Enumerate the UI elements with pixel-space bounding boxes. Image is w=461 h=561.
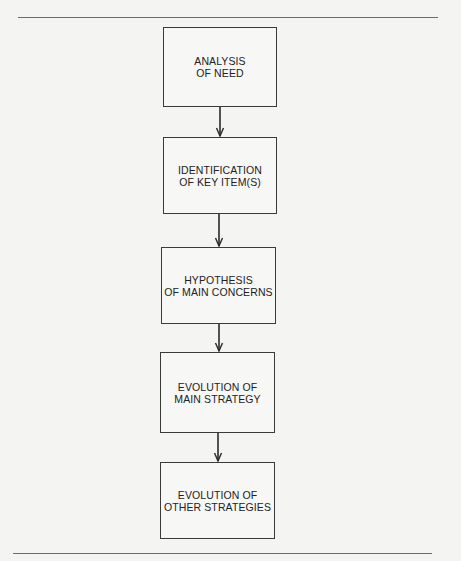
node-evolution-of-main-strategy: EVOLUTION OF MAIN STRATEGY xyxy=(160,352,275,433)
node-identification-of-key-items: IDENTIFICATION OF KEY ITEM(S) xyxy=(163,137,277,214)
node-label-line-2: MAIN STRATEGY xyxy=(174,393,260,405)
node-hypothesis-of-main-concerns: HYPOTHESIS OF MAIN CONCERNS xyxy=(161,247,276,324)
node-analysis-of-need: ANALYSIS OF NEED xyxy=(163,27,277,107)
arrow-down-icon xyxy=(214,324,224,352)
top-rule xyxy=(18,17,438,18)
arrow-down-icon xyxy=(214,214,224,247)
bottom-rule xyxy=(13,553,432,554)
node-label-line-2: OF KEY ITEM(S) xyxy=(179,176,261,188)
node-evolution-of-other-strategies: EVOLUTION OF OTHER STRATEGIES xyxy=(160,462,275,539)
arrow-down-icon xyxy=(215,107,225,137)
node-label-line-1: ANALYSIS xyxy=(194,55,245,67)
arrow-down-icon xyxy=(213,433,223,462)
node-label-line-2: OTHER STRATEGIES xyxy=(164,501,271,513)
node-label-line-1: IDENTIFICATION xyxy=(178,164,262,176)
node-label-line-1: HYPOTHESIS xyxy=(184,274,253,286)
node-label-line-1: EVOLUTION OF xyxy=(178,489,257,501)
node-label-line-2: OF MAIN CONCERNS xyxy=(164,286,272,298)
node-label-line-1: EVOLUTION OF xyxy=(178,381,257,393)
node-label-line-2: OF NEED xyxy=(196,67,243,79)
